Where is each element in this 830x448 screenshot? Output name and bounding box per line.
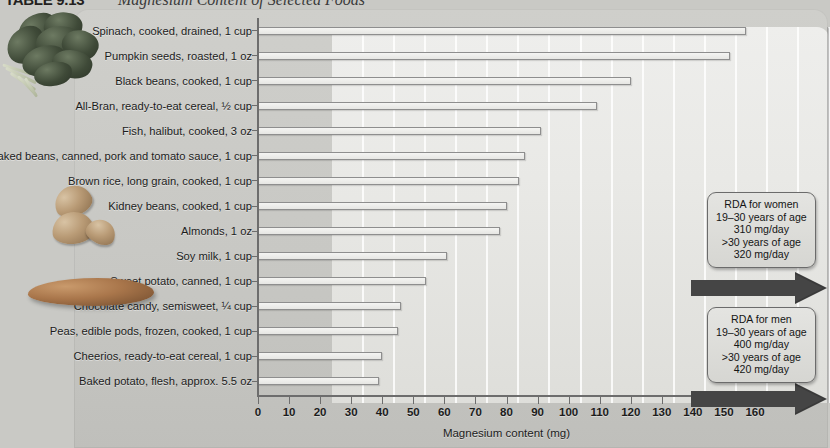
x-axis-tick — [538, 397, 539, 404]
x-axis-tick-label: 50 — [407, 406, 420, 418]
x-axis-tick-label: 20 — [314, 406, 327, 418]
rda-men-arrow-icon — [691, 383, 828, 415]
rda-women-arrow-icon — [691, 272, 828, 304]
table-number-label: TABLE 9.13 — [5, 0, 84, 8]
x-axis-tick-label: 90 — [531, 406, 544, 418]
x-axis-tick — [444, 397, 445, 404]
x-axis-tick — [258, 397, 259, 404]
x-axis-tick — [475, 397, 476, 404]
x-axis-tick — [600, 397, 601, 404]
figure-title-strip: TABLE 9.13 Magnesium Content of Selected… — [0, 0, 828, 9]
x-axis-tick — [289, 397, 290, 404]
rda-women-callout: RDA for women 19–30 years of age 310 mg/… — [707, 192, 816, 268]
x-axis-tick-label: 100 — [559, 406, 578, 418]
x-axis-tick — [320, 397, 321, 404]
x-axis-tick-label: 60 — [438, 406, 451, 418]
rda-women-title: RDA for women — [716, 198, 807, 211]
rda-men-value1: 400 mg/day — [716, 338, 807, 351]
x-axis-tick — [382, 397, 383, 404]
x-axis-tick — [631, 397, 632, 404]
x-axis-tick-label: 110 — [590, 406, 609, 418]
rda-men-callout: RDA for men 19–30 years of age 400 mg/da… — [707, 307, 816, 383]
rda-men-title: RDA for men — [716, 313, 807, 326]
spinach-photo — [0, 12, 104, 100]
x-axis-tick — [413, 397, 414, 404]
x-axis-tick — [662, 397, 663, 404]
x-axis-tick-label: 80 — [500, 406, 513, 418]
almonds-photo — [52, 186, 124, 262]
x-axis-tick-label: 0 — [255, 406, 261, 418]
x-axis-tick-label: 30 — [345, 406, 358, 418]
rda-women-value2: 320 mg/day — [716, 248, 807, 261]
rda-women-age1: 19–30 years of age — [716, 211, 807, 224]
x-axis-tick — [351, 397, 352, 404]
x-axis-title: Magnesium content (mg) — [258, 427, 755, 439]
rda-women-value1: 310 mg/day — [716, 223, 807, 236]
x-axis-tick-label: 70 — [469, 406, 482, 418]
x-axis-tick — [569, 397, 570, 404]
x-axis-tick-label: 10 — [283, 406, 296, 418]
x-axis-tick-label: 130 — [652, 406, 671, 418]
rda-men-value2: 420 mg/day — [716, 363, 807, 376]
rda-men-age1: 19–30 years of age — [716, 326, 807, 339]
x-axis-tick-label: 120 — [621, 406, 640, 418]
x-axis-tick-label: 40 — [376, 406, 389, 418]
rda-men-age2: >30 years of age — [716, 351, 807, 364]
x-axis-tick — [507, 397, 508, 404]
rda-women-age2: >30 years of age — [716, 236, 807, 249]
sweet-potato-photo — [28, 270, 154, 314]
figure-title: Magnesium Content of Selected Foods — [118, 0, 365, 9]
